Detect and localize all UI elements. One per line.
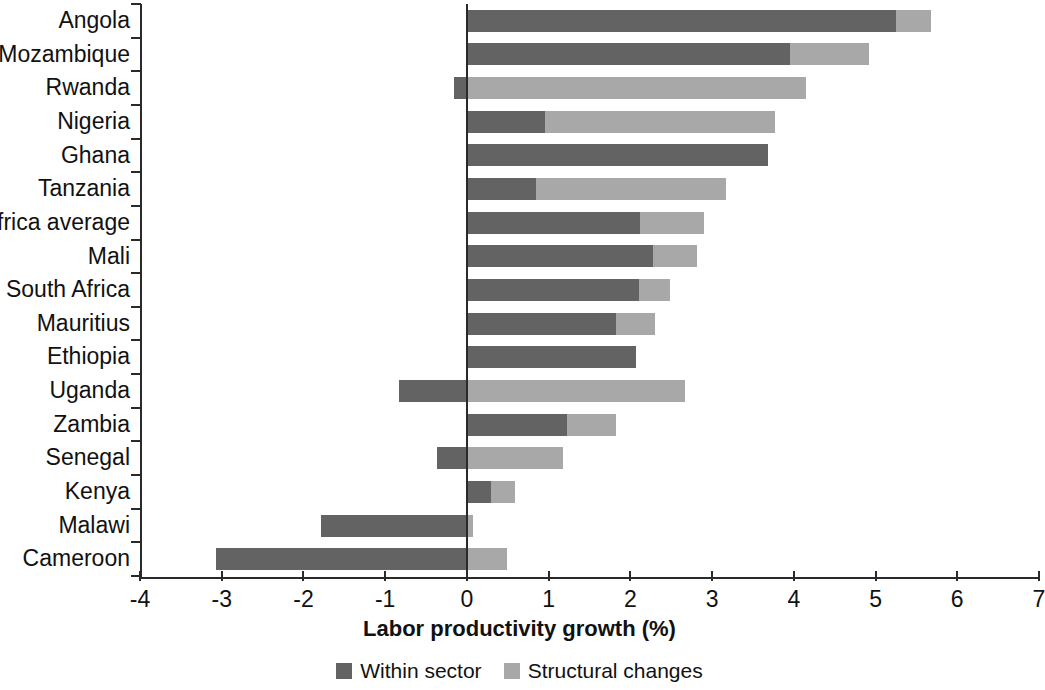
x-axis-tick-label: 2 [624,586,637,613]
bar-segment-structural-changes [790,43,869,65]
x-axis-tick-label: 6 [951,586,964,613]
y-axis-tick [131,70,141,72]
y-axis-tick [131,306,141,308]
bar-segment-structural-changes [896,10,931,32]
category-label: Ghana [0,139,130,173]
y-axis-tick [131,373,141,375]
bar-segment-within-sector [467,111,545,133]
y-axis-tick [131,339,141,341]
category-label: Angola [0,4,130,38]
x-axis-tick [548,571,550,581]
x-axis-tick [956,571,958,581]
legend-label: Within sector [360,659,481,683]
category-label: Rwanda [0,71,130,105]
bar-segment-within-sector [467,279,639,301]
chart-legend: Within sectorStructural changes [0,659,1039,683]
bar-segment-within-sector [467,346,636,368]
y-axis-tick [131,407,141,409]
legend-item: Within sector [336,659,481,683]
category-label: Uganda [0,374,130,408]
bar-segment-structural-changes [567,414,615,436]
legend-label: Structural changes [528,659,703,683]
category-label: Ethiopia [0,340,130,374]
y-axis-tick [131,508,141,510]
category-label: Kenya [0,475,130,509]
legend-item: Structural changes [504,659,703,683]
bar-segment-structural-changes [536,178,726,200]
x-axis-tick [793,571,795,581]
y-axis-tick [131,37,141,39]
y-axis-tick [131,104,141,106]
x-axis-tick [384,571,386,581]
bar-segment-within-sector [467,481,492,503]
y-axis-tick [131,272,141,274]
x-axis-tick-label: -3 [211,586,231,613]
y-axis-tick [131,474,141,476]
x-axis-tick [139,571,141,581]
x-axis-tick-label: 3 [706,586,719,613]
x-axis-tick-label: -1 [375,586,395,613]
bar-segment-within-sector [467,313,616,335]
y-axis-tick [131,205,141,207]
x-axis-tick [1038,571,1040,581]
x-axis-tick-label: 5 [869,586,882,613]
x-axis-tick-label: 0 [461,586,474,613]
category-label: Malawi [0,509,130,543]
y-axis-tick [131,3,141,5]
x-axis-tick-label: -4 [130,586,150,613]
category-label: Tanzania [0,172,130,206]
category-label: Cameroon [0,542,130,576]
bar-segment-within-sector [467,144,768,166]
x-axis-tick [221,571,223,581]
category-label: Mauritius [0,307,130,341]
y-axis-spine [140,4,142,578]
x-axis-tick [875,571,877,581]
bar-segment-within-sector [437,447,467,469]
x-axis-tick-label: 1 [542,586,555,613]
category-label: Mozambique [0,38,130,72]
category-label: Mali [0,240,130,274]
bar-segment-structural-changes [467,77,806,99]
category-label: Senegal [0,441,130,475]
bar-segment-within-sector [216,548,467,570]
x-axis-spine [140,577,1039,579]
y-axis-tick [131,171,141,173]
category-label: Africa average [0,206,130,240]
bar-segment-structural-changes [639,279,670,301]
y-axis-tick [131,138,141,140]
legend-swatch-icon [336,663,352,679]
x-axis-tick [711,571,713,581]
bar-segment-within-sector [467,178,536,200]
bar-segment-within-sector [467,245,653,267]
bar-segment-within-sector [321,515,466,537]
y-axis-tick [131,541,141,543]
bar-segment-structural-changes [467,380,685,402]
x-axis-tick-label: 7 [1033,586,1045,613]
bar-segment-within-sector [467,414,568,436]
category-label: South Africa [0,273,130,307]
x-axis-title: Labor productivity growth (%) [0,616,1039,642]
x-axis-tick-label: 4 [787,586,800,613]
bar-segment-within-sector [467,10,896,32]
bar-segment-within-sector [467,43,790,65]
x-axis-tick-label: -2 [293,586,313,613]
bar-segment-structural-changes [545,111,775,133]
bar-segment-structural-changes [467,548,507,570]
bar-segment-within-sector [467,212,640,234]
bar-segment-structural-changes [653,245,697,267]
category-label: Nigeria [0,105,130,139]
x-axis-tick [302,571,304,581]
y-axis-tick [131,440,141,442]
bar-segment-structural-changes [640,212,704,234]
y-axis-tick [131,239,141,241]
bar-segment-structural-changes [491,481,515,503]
legend-swatch-icon [504,663,520,679]
x-axis-tick [629,571,631,581]
bar-segment-structural-changes [467,447,563,469]
bar-segment-structural-changes [616,313,655,335]
zero-reference-line [466,4,468,578]
bar-segment-within-sector [399,380,467,402]
category-label: Zambia [0,408,130,442]
